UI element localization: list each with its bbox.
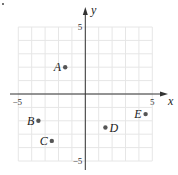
point-d: D: [103, 121, 118, 135]
point-label: E: [133, 107, 142, 121]
x-tick-label: 5: [150, 97, 155, 107]
point-c: C: [40, 134, 54, 148]
point-b: B: [27, 114, 41, 128]
point-label: B: [27, 114, 35, 128]
x-axis-arrow-icon: [160, 92, 168, 97]
point-marker-icon: [103, 125, 107, 129]
x-axis-label: x: [167, 94, 174, 108]
y-axis-arrow-icon: [83, 7, 88, 15]
x-tick-label: −5: [13, 97, 23, 107]
point-marker-icon: [36, 119, 40, 123]
coordinate-plane: xy −555−5 ABCDE: [0, 0, 178, 175]
point-marker-icon: [50, 139, 54, 143]
y-tick-label: −5: [73, 156, 83, 166]
point-marker-icon: [63, 65, 67, 69]
axes: xy: [10, 3, 174, 170]
point-e: E: [133, 107, 148, 121]
y-axis-label: y: [90, 3, 97, 17]
point-a: A: [53, 60, 68, 74]
corner-mark: [2, 3, 4, 5]
point-label: A: [53, 60, 62, 74]
point-label: D: [108, 121, 118, 135]
y-tick-label: 5: [78, 22, 83, 32]
point-marker-icon: [143, 112, 147, 116]
point-label: C: [40, 134, 49, 148]
